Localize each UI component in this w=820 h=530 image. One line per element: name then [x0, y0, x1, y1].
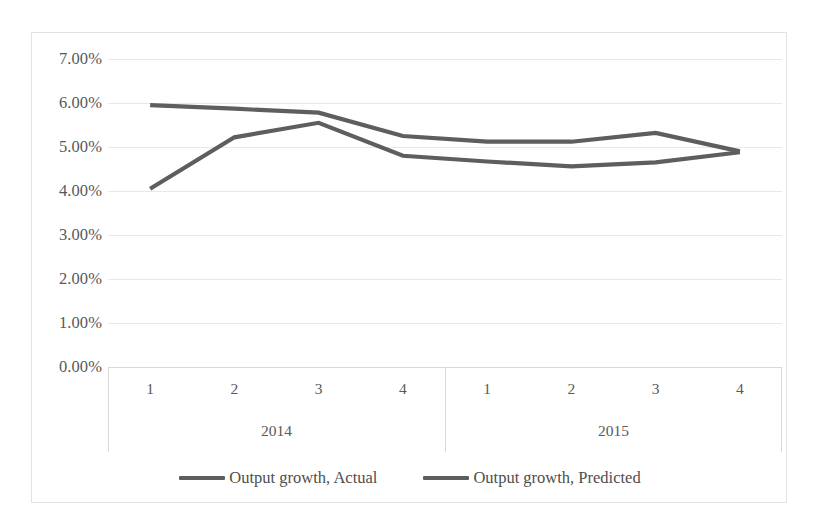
- y-axis: 7.00%6.00%5.00%4.00%3.00%2.00%1.00%0.00%: [32, 33, 108, 393]
- y-axis-tick-label: 7.00%: [59, 51, 102, 68]
- x-axis-quarter-label: 4: [698, 368, 782, 410]
- legend-item[interactable]: Output growth, Predicted: [423, 468, 640, 488]
- y-axis-tick-label: 3.00%: [59, 227, 102, 244]
- y-axis-tick-label: 2.00%: [59, 271, 102, 288]
- x-axis-year-label: 2014: [108, 410, 445, 452]
- series-lines: [108, 59, 782, 367]
- grid-area: [108, 59, 782, 367]
- y-axis-tick-label: 5.00%: [59, 139, 102, 156]
- legend-item-label: Output growth, Actual: [229, 468, 377, 488]
- legend-item[interactable]: Output growth, Actual: [179, 468, 377, 488]
- chart-container: 7.00%6.00%5.00%4.00%3.00%2.00%1.00%0.00%…: [31, 32, 787, 503]
- axis-divider-left: [108, 368, 109, 452]
- series-line-predicted: [150, 105, 740, 151]
- legend-line-swatch-icon: [423, 476, 469, 480]
- y-axis-tick-label: 4.00%: [59, 183, 102, 200]
- chart-legend: Output growth, ActualOutput growth, Pred…: [32, 458, 788, 498]
- x-axis-quarter-label: 1: [108, 368, 192, 410]
- x-axis-quarter-label: 3: [614, 368, 698, 410]
- x-axis-year-label: 2015: [445, 410, 782, 452]
- legend-item-label: Output growth, Predicted: [473, 468, 640, 488]
- x-axis: 12341234 20142015: [108, 367, 782, 451]
- y-axis-tick-label: 6.00%: [59, 95, 102, 112]
- x-axis-quarter-label: 4: [361, 368, 445, 410]
- legend-line-swatch-icon: [179, 476, 225, 480]
- plot-area: 7.00%6.00%5.00%4.00%3.00%2.00%1.00%0.00%…: [32, 33, 788, 504]
- y-axis-tick-label: 0.00%: [59, 359, 102, 376]
- x-axis-quarter-label: 2: [192, 368, 276, 410]
- x-axis-quarter-label: 1: [445, 368, 529, 410]
- x-axis-quarter-label: 3: [277, 368, 361, 410]
- y-axis-tick-label: 1.00%: [59, 315, 102, 332]
- axis-divider-right: [781, 368, 782, 452]
- axis-divider-mid: [445, 368, 446, 452]
- x-axis-quarter-label: 2: [529, 368, 613, 410]
